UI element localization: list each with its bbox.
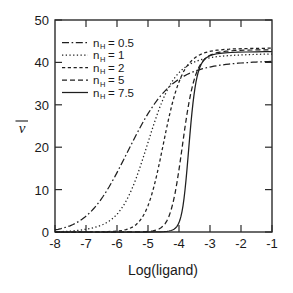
x-tick-label: -6	[111, 236, 123, 251]
curve-nh-2	[55, 48, 272, 232]
x-tick-label: -1	[266, 236, 278, 251]
legend-symbol: n	[93, 62, 99, 74]
x-tick-label: -8	[49, 236, 61, 251]
legend-equals: =	[108, 49, 115, 61]
legend-symbol: n	[93, 74, 99, 86]
y-axis-title: ν	[16, 120, 29, 136]
legend-symbol: n	[93, 37, 99, 49]
legend-value: 7.5	[118, 87, 134, 99]
x-tick-label: -2	[235, 236, 247, 251]
legend-equals: =	[108, 87, 115, 99]
legend-equals: =	[108, 74, 115, 86]
legend-value: 2	[118, 62, 124, 74]
chart-legend: n H = 0.5 n H = 1 n H = 2 n H	[62, 37, 134, 102]
legend-equals: =	[108, 62, 115, 74]
y-axis-title-glyph: ν	[19, 120, 26, 136]
legend-symbol: n	[93, 49, 99, 61]
x-axis-title: Log(ligand)	[128, 262, 198, 278]
legend-equals: =	[108, 37, 115, 49]
x-tick-label: -5	[142, 236, 154, 251]
chart-svg: 0 10 20 30 40 50 -8 -7 -6 -5 -4 -3 -2 -1…	[0, 0, 293, 293]
legend-entry-nh-7.5: n H = 7.5	[93, 87, 134, 102]
y-tick-label: 30	[35, 98, 49, 113]
legend-subscript: H	[100, 67, 105, 76]
x-tick-label: -4	[173, 236, 185, 251]
legend-symbol: n	[93, 87, 99, 99]
legend-value: 5	[118, 74, 124, 86]
y-tick-label: 20	[35, 140, 49, 155]
chart-figure: 0 10 20 30 40 50 -8 -7 -6 -5 -4 -3 -2 -1…	[0, 0, 293, 293]
legend-value: 0.5	[118, 37, 134, 49]
curves	[55, 48, 272, 232]
legend-subscript: H	[100, 42, 105, 51]
y-tick-labels: 0 10 20 30 40 50	[35, 13, 49, 240]
x-tick-labels: -8 -7 -6 -5 -4 -3 -2 -1	[49, 236, 278, 251]
x-tick-label: -7	[80, 236, 92, 251]
x-tick-label: -3	[204, 236, 216, 251]
curve-nh-5	[55, 50, 272, 232]
y-tick-label: 10	[35, 183, 49, 198]
legend-value: 1	[118, 49, 124, 61]
legend-subscript: H	[100, 92, 105, 101]
legend-subscript: H	[100, 80, 105, 89]
y-tick-label: 40	[35, 55, 49, 70]
legend-subscript: H	[100, 55, 105, 64]
y-tick-label: 0	[42, 225, 49, 240]
curve-nh-0.5	[55, 61, 272, 230]
y-tick-label: 50	[35, 13, 49, 28]
